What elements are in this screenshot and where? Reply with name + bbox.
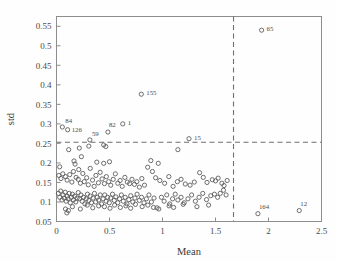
data-point-marker [224,193,228,197]
data-point-marker [167,175,171,179]
y-tick-label: 0.4 [40,80,52,90]
y-tick-label: 0.5 [40,41,52,51]
data-point-marker [94,173,98,177]
data-point-marker [79,155,83,159]
data-point-marker [68,173,72,177]
data-point-marker [67,148,71,152]
data-point-marker [96,181,100,185]
data-point-marker [108,206,112,210]
data-point-marker [152,196,156,200]
y-tick-label: 0.2 [40,158,51,168]
data-point-marker [78,207,82,211]
data-point-marker [118,205,122,209]
data-point-marker [109,183,113,187]
data-point-marker [58,165,62,169]
data-point-marker [137,185,141,189]
y-tick-label: 0.05 [36,217,52,227]
data-point-marker [197,195,201,199]
y-tick-label: 0.25 [36,139,52,149]
x-axis-ticks: 00.511.522.5 [54,218,327,236]
data-point-marker [118,178,122,182]
data-point-marker [121,122,125,126]
y-tick-label: 0.1 [40,197,51,207]
data-point-marker [198,171,202,175]
data-point-marker [87,144,91,148]
point-label: 164 [259,203,270,210]
data-point-marker [88,166,92,170]
data-point-marker [165,193,169,197]
x-axis-title: Mean [177,246,202,257]
data-point-marker [100,177,104,181]
x-tick-label: 1 [160,226,165,236]
data-point-marker [92,191,96,195]
data-point-marker [188,183,192,187]
data-point-marker [154,176,158,180]
plot-frame [57,17,322,222]
data-point-marker [79,193,83,197]
data-point-marker [98,193,102,197]
data-point-marker [146,203,150,207]
data-point-marker [81,171,85,175]
data-point-marker [70,180,74,184]
data-point-marker [149,200,153,204]
data-point-marker [216,176,220,180]
data-point-marker [205,180,209,184]
data-point-marker [86,183,90,187]
data-point-marker [90,178,94,182]
data-point-marker [85,176,89,180]
data-point-marker [107,160,111,164]
data-point-marker [225,178,229,182]
data-point-marker [187,137,191,141]
data-point-marker [59,176,63,180]
data-point-marker [162,199,166,203]
data-point-marker [77,167,81,171]
data-point-marker [111,177,115,181]
data-point-marker [102,182,106,186]
point-label: 15 [194,134,201,141]
data-point-marker [82,180,86,184]
data-point-marker [120,184,124,188]
data-point-marker [204,198,208,202]
data-point-marker [297,208,301,212]
data-point-marker [146,165,150,169]
x-tick-label: 1.5 [210,226,222,236]
data-point-marker [159,195,163,199]
y-tick-label: 0.45 [36,61,52,71]
data-point-marker [129,194,133,198]
data-point-marker [91,206,95,210]
data-point-marker [65,178,69,182]
data-point-marker [60,125,64,129]
data-point-marker [71,169,75,173]
data-point-marker [201,191,205,195]
point-label: 126 [72,126,83,133]
data-point-marker [113,172,117,176]
data-point-marker [106,130,110,134]
data-point-marker [158,178,162,182]
y-tick-label: 0.35 [36,100,52,110]
threshold-lines [57,17,322,222]
data-point-marker [112,203,116,207]
data-point-marker [193,199,197,203]
data-point-marker [170,197,174,201]
data-point-marker [70,205,74,209]
data-point-marker [221,188,225,192]
data-point-marker [123,175,127,179]
y-tick-label: 0.15 [36,178,52,188]
data-point-marker [76,191,80,195]
data-point-marker [131,200,135,204]
data-point-marker [207,203,211,207]
data-point-marker [147,193,151,197]
data-point-marker [95,160,99,164]
data-point-marker [98,170,102,174]
x-tick-label: 0.5 [104,226,116,236]
data-point-marker [216,195,220,199]
data-point-marker [195,205,199,209]
data-point-marker [89,201,93,205]
data-point-marker [150,169,154,173]
data-point-marker [171,184,175,188]
data-point-marker [135,180,139,184]
data-point-marker [66,128,70,132]
plot-canvas: 0.050.10.150.20.250.30.350.40.450.50.55 … [0,0,337,262]
data-point-marker [179,177,183,181]
data-point-marker [156,161,160,165]
